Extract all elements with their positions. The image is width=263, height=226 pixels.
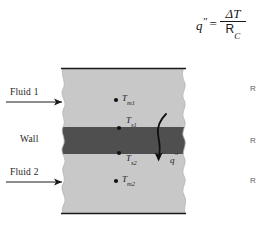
temperature-label-s1: Ts1 bbox=[126, 115, 137, 127]
temperature-dot-s2 bbox=[117, 151, 121, 155]
fluid-2-flow-arrow bbox=[6, 179, 62, 186]
wall-label: Wall bbox=[20, 134, 39, 144]
resistance-label-3: R bbox=[250, 176, 256, 185]
wall-band-fill bbox=[55, 127, 195, 154]
temperature-dot-s1 bbox=[117, 126, 121, 130]
fluid-1-flow-arrow bbox=[6, 99, 62, 106]
temperature-label-m1: Tm1 bbox=[122, 93, 135, 105]
fluid-1-label: Fluid 1 bbox=[10, 87, 39, 97]
wall-diagram bbox=[0, 0, 263, 226]
resistance-label-2: R bbox=[250, 136, 256, 145]
temperature-dot-m1 bbox=[114, 98, 118, 102]
temperature-label-s2: Ts2 bbox=[126, 153, 137, 165]
resistance-label-1: R bbox=[250, 84, 256, 93]
heat-flux-label: q″ bbox=[170, 152, 177, 165]
figure-canvas: q″ = ΔT RC bbox=[0, 0, 263, 226]
temperature-label-m2: Tm2 bbox=[122, 174, 135, 186]
temperature-dot-m2 bbox=[114, 179, 118, 183]
slab-group bbox=[55, 66, 195, 216]
fluid-2-label: Fluid 2 bbox=[10, 167, 39, 177]
